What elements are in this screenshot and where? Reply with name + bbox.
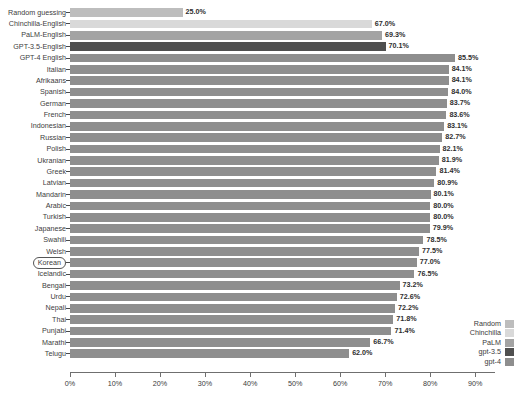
y-axis-label-text: GPT-4 English — [20, 54, 66, 62]
bar-value-label: 80.0% — [433, 201, 453, 211]
bar-value-label: 25.0% — [186, 7, 206, 17]
bar[interactable] — [70, 236, 423, 245]
bar-value-label: 76.5% — [417, 269, 437, 279]
y-axis-label: Icelandic — [0, 269, 66, 280]
bar-row: 69.3% — [70, 30, 495, 41]
y-axis-label: Welsh — [0, 246, 66, 257]
legend-item-label: Random — [474, 320, 501, 328]
legend-item[interactable]: gpt-4 — [485, 358, 514, 366]
y-axis-label: Latvian — [0, 178, 66, 189]
bar[interactable] — [70, 247, 419, 256]
bar-value-label: 81.4% — [439, 166, 459, 176]
y-axis-label-text: Polish — [46, 145, 66, 153]
bar-chart: Random guessingChinchilla-EnglishPaLM-En… — [0, 0, 520, 398]
bar[interactable] — [70, 224, 430, 233]
bar[interactable] — [70, 167, 436, 176]
bar[interactable] — [70, 20, 372, 29]
bar-value-label: 84.1% — [452, 75, 472, 85]
y-axis-label: PaLM-English — [0, 30, 66, 41]
bar-row: 67.0% — [70, 18, 495, 29]
bar-row: 78.5% — [70, 235, 495, 246]
legend-item-label: gpt-4 — [485, 358, 501, 366]
y-axis-label-text: Thai — [52, 316, 66, 324]
bar[interactable] — [70, 327, 391, 336]
bar-row: 80.9% — [70, 178, 495, 189]
y-axis-label: Ukranian — [0, 155, 66, 166]
bar-value-label: 80.9% — [437, 178, 457, 188]
bar[interactable] — [70, 270, 414, 279]
x-axis: 0%10%20%30%40%50%60%70%80%90% — [70, 372, 495, 374]
y-axis-label-text: Italian — [47, 66, 66, 74]
x-axis-tick-label: 50% — [288, 379, 302, 388]
x-axis-tick-label: 70% — [378, 379, 392, 388]
bar-row: 80.1% — [70, 189, 495, 200]
y-axis-label-text: Nepali — [46, 304, 66, 312]
bar[interactable] — [70, 190, 431, 199]
y-axis-label: Swahili — [0, 235, 66, 246]
bar-value-label: 69.3% — [385, 30, 405, 40]
y-axis-label: Punjabi — [0, 326, 66, 337]
bar[interactable] — [70, 31, 382, 40]
bar[interactable] — [70, 349, 349, 358]
legend: RandomChinchillaPaLMgpt-3.5gpt-4 — [470, 320, 514, 366]
bar[interactable] — [70, 213, 430, 222]
bar-value-label: 79.9% — [433, 223, 453, 233]
bar[interactable] — [70, 88, 448, 97]
bar-row: 82.1% — [70, 144, 495, 155]
legend-item[interactable]: PaLM — [482, 339, 514, 347]
bar[interactable] — [70, 304, 395, 313]
bar-row: 25.0% — [70, 7, 495, 18]
bar[interactable] — [70, 145, 440, 154]
bar[interactable] — [70, 133, 442, 142]
bar-row: 79.9% — [70, 223, 495, 234]
bar[interactable] — [70, 54, 455, 63]
y-axis-label-text: Korean — [33, 257, 66, 269]
bar[interactable] — [70, 156, 439, 165]
y-axis-labels: Random guessingChinchilla-EnglishPaLM-En… — [0, 7, 66, 372]
y-axis-label-text: Punjabi — [42, 327, 66, 335]
bar-value-label: 84.0% — [451, 87, 471, 97]
bar[interactable] — [70, 76, 449, 85]
bar[interactable] — [70, 338, 370, 347]
legend-item[interactable]: gpt-3.5 — [479, 348, 514, 356]
bar[interactable] — [70, 42, 386, 51]
bar[interactable] — [70, 122, 444, 131]
bar[interactable] — [70, 8, 183, 17]
y-axis-label: Chinchilla-English — [0, 18, 66, 29]
x-axis-tick — [475, 373, 476, 377]
bar[interactable] — [70, 202, 430, 211]
y-axis-label: Telugu — [0, 348, 66, 359]
bar-row: 84.1% — [70, 75, 495, 86]
y-axis-label: GPT-4 English — [0, 53, 66, 64]
y-axis-label-text: Ukranian — [37, 157, 66, 165]
x-axis-tick — [340, 373, 341, 377]
bar[interactable] — [70, 111, 446, 120]
bar-value-label: 82.1% — [443, 144, 463, 154]
y-axis-label: Urdu — [0, 291, 66, 302]
bar-row: 83.1% — [70, 121, 495, 132]
bar-row: 71.4% — [70, 326, 495, 337]
y-axis-label: Turkish — [0, 212, 66, 223]
legend-item-label: Chinchilla — [470, 329, 501, 337]
bar[interactable] — [70, 293, 397, 302]
legend-item[interactable]: Chinchilla — [470, 329, 514, 337]
bar[interactable] — [70, 258, 417, 267]
y-axis-label: GPT-3.5-English — [0, 41, 66, 52]
y-axis-label-text: Random guessing — [8, 9, 66, 17]
x-axis-tick — [160, 373, 161, 377]
bar[interactable] — [70, 99, 447, 108]
y-axis-label: Russian — [0, 132, 66, 143]
bar[interactable] — [70, 281, 400, 290]
bar[interactable] — [70, 65, 449, 74]
y-axis-label: Polish — [0, 144, 66, 155]
bar-row: 72.2% — [70, 303, 495, 314]
bar[interactable] — [70, 179, 434, 188]
y-axis-label-text: Greek — [46, 168, 66, 176]
legend-item[interactable]: Random — [474, 320, 514, 328]
y-axis-label-text: Indonesian — [31, 122, 66, 130]
bar-row: 82.7% — [70, 132, 495, 143]
bar[interactable] — [70, 315, 393, 324]
bar-row: 80.0% — [70, 212, 495, 223]
y-axis-label-text: Spanish — [40, 88, 66, 96]
plot-area: 25.0%67.0%69.3%70.1%85.5%84.1%84.1%84.0%… — [70, 7, 495, 372]
